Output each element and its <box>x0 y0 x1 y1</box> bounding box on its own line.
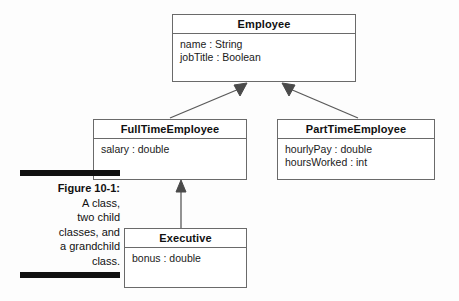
attribute-row: jobTitle : Boolean <box>180 51 355 64</box>
caption-line: A class, <box>18 196 120 211</box>
arrow-executive-to-fulltime <box>176 180 186 228</box>
caption-line: class. <box>18 254 120 269</box>
caption-rule-bottom <box>20 272 120 278</box>
class-name-parttimeemployee: PartTimeEmployee <box>278 120 434 139</box>
class-box-employee[interactable]: Employee name : String jobTitle : Boolea… <box>172 14 356 82</box>
attribute-row: hourlyPay : double <box>285 143 434 156</box>
class-attributes-parttimeemployee: hourlyPay : double hoursWorked : int <box>278 139 434 170</box>
class-attributes-employee: name : String jobTitle : Boolean <box>173 34 355 65</box>
arrow-parttime-to-employee <box>282 83 358 118</box>
figure-caption: Figure 10-1: A class, two child classes,… <box>18 170 122 278</box>
class-attributes-fulltimeemployee: salary : double <box>94 139 246 158</box>
figure-canvas: Employee name : String jobTitle : Boolea… <box>0 0 459 301</box>
arrow-fulltime-to-employee <box>170 83 247 118</box>
attribute-row: hoursWorked : int <box>285 156 434 169</box>
caption-text: Figure 10-1: A class, two child classes,… <box>18 176 122 272</box>
class-box-executive[interactable]: Executive bonus : double <box>124 228 247 288</box>
class-box-parttimeemployee[interactable]: PartTimeEmployee hourlyPay : double hour… <box>277 119 435 180</box>
class-name-employee: Employee <box>173 15 355 34</box>
class-name-executive: Executive <box>125 229 246 248</box>
attribute-row: salary : double <box>101 143 246 156</box>
caption-line: a grandchild <box>18 239 120 254</box>
attribute-row: bonus : double <box>132 252 246 265</box>
class-attributes-executive: bonus : double <box>125 248 246 267</box>
caption-line: classes, and <box>18 225 120 240</box>
caption-line: two child <box>18 210 120 225</box>
class-name-fulltimeemployee: FullTimeEmployee <box>94 120 246 139</box>
caption-title: Figure 10-1: <box>18 181 120 196</box>
attribute-row: name : String <box>180 38 355 51</box>
